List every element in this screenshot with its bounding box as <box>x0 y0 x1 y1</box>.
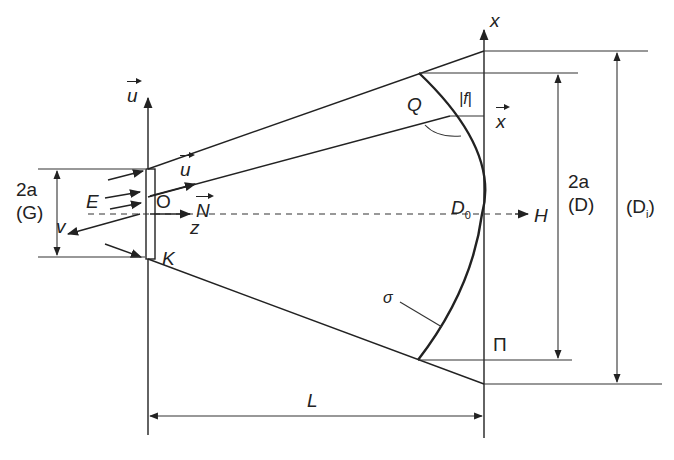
label-v: v <box>56 217 66 236</box>
label-z: z <box>190 218 200 237</box>
label-G: (G) <box>16 203 43 222</box>
label-Di: (Di) <box>626 197 655 220</box>
label-u-ray: u <box>180 160 191 179</box>
label-O: O <box>156 192 171 211</box>
label-D0: D0 <box>451 198 471 221</box>
label-sigma: σ <box>383 290 393 306</box>
label-E: E <box>86 192 99 211</box>
label-2a-D: 2a <box>568 172 589 191</box>
v-arrow <box>68 214 140 234</box>
label-x-vec: x <box>496 112 506 131</box>
label-H: H <box>534 206 548 225</box>
label-Pi: Π <box>493 335 507 354</box>
label-D: (D) <box>568 195 594 214</box>
label-L: L <box>307 391 318 410</box>
label-x-axis: x <box>490 11 500 30</box>
angle-arc <box>425 125 461 136</box>
label-f: |f| <box>459 91 472 107</box>
label-Q: Q <box>407 95 422 114</box>
label-u-axis: u <box>127 86 138 105</box>
label-2a-G: 2a <box>16 180 37 199</box>
diagram-canvas <box>0 0 674 460</box>
label-K: K <box>162 249 175 268</box>
